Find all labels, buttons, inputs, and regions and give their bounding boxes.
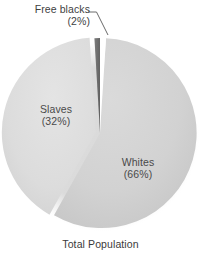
- pie-label-slaves-name: Slaves: [22, 104, 90, 116]
- pie-label-free-blacks-name: Free blacks: [6, 4, 90, 16]
- pie-label-whites-name: Whites: [104, 157, 172, 169]
- pie-label-whites-percent: (66%): [104, 169, 172, 181]
- pie-label-free-blacks-percent: (2%): [6, 16, 90, 28]
- pie-chart-figure: Free blacks (2%) Slaves (32%) Whites (66…: [0, 0, 201, 262]
- pie-label-slaves: Slaves (32%): [22, 104, 90, 128]
- chart-caption: Total Population: [0, 238, 201, 250]
- pie-label-free-blacks: Free blacks (2%): [6, 4, 90, 28]
- pie-chart-graphic: [0, 0, 201, 262]
- pie-label-whites: Whites (66%): [104, 157, 172, 181]
- pie-label-slaves-percent: (32%): [22, 116, 90, 128]
- leader-line-free-blacks: [88, 12, 108, 35]
